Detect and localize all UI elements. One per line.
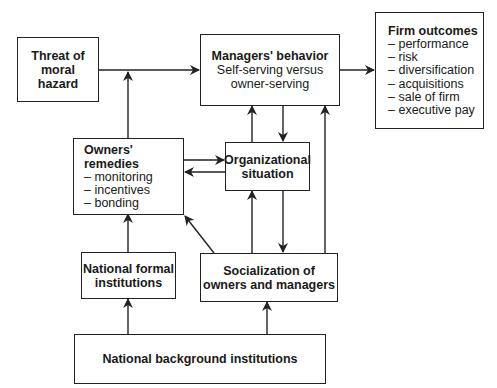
node-national-background-institutions: National background institutions xyxy=(74,334,326,384)
list-item: – incentives xyxy=(84,184,150,197)
node-managers-behavior: Managers' behavior Self-serving versus o… xyxy=(200,34,340,106)
node-title: Threat of moral hazard xyxy=(31,49,84,91)
list-item: – risk xyxy=(388,51,418,64)
list-item: – bonding xyxy=(84,197,139,210)
node-subtitle: Self-serving versus owner-serving xyxy=(217,63,323,91)
list-item: – diversification xyxy=(388,64,474,77)
arrow-socialization-to-owners xyxy=(185,216,214,253)
node-title: National background institutions xyxy=(102,352,297,366)
node-organizational-situation: Organizational situation xyxy=(225,142,310,191)
node-title: Firm outcomes xyxy=(388,24,478,38)
node-title: National formal institutions xyxy=(83,262,174,290)
list-item: – sale of firm xyxy=(388,91,460,104)
node-owners-remedies: Owners' remedies – monitoring – incentiv… xyxy=(73,138,184,215)
node-title: Organizational situation xyxy=(224,153,311,181)
node-firm-outcomes: Firm outcomes – performance – risk – div… xyxy=(375,12,484,129)
list-item: – acquisitions xyxy=(388,78,464,91)
list-item: – executive pay xyxy=(388,104,475,117)
node-title: Managers' behavior xyxy=(212,49,329,63)
node-socialization: Socialization of owners and managers xyxy=(200,253,338,302)
node-national-formal-institutions: National formal institutions xyxy=(81,252,176,299)
node-title: Socialization of owners and managers xyxy=(203,264,335,292)
list-item: – monitoring xyxy=(84,171,153,184)
node-threat-of-moral-hazard: Threat of moral hazard xyxy=(17,37,99,102)
list-item: – performance xyxy=(388,38,469,51)
node-title: Owners' remedies xyxy=(84,143,183,171)
